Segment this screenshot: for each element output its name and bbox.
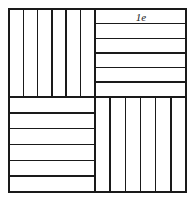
pinwheel-diagram: 1e bbox=[0, 0, 193, 201]
diagram-canvas: 1e bbox=[0, 0, 193, 201]
quadrant-label-1e: 1e bbox=[136, 11, 147, 23]
canvas-background bbox=[0, 0, 193, 201]
